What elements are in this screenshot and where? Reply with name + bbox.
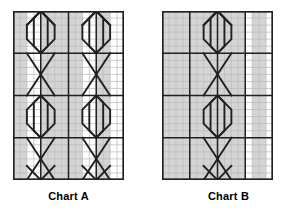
chart-b-grid	[162, 11, 273, 180]
chart-b-label: Chart B	[160, 190, 297, 202]
chart-a-wrapper	[13, 11, 124, 180]
chart-a-grid	[13, 11, 124, 180]
chart-b-wrapper	[162, 11, 273, 180]
figure-root: Chart A Chart B	[0, 0, 297, 213]
chart-a-label: Chart A	[0, 190, 137, 202]
